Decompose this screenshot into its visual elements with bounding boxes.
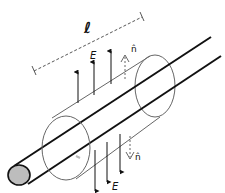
rod-end-face: [8, 165, 30, 185]
dimension-tick-right: [140, 12, 144, 21]
cylinder-bottom-edge: [76, 117, 160, 179]
normal-label-bottom: n̂: [135, 152, 141, 162]
charged-rod: [8, 37, 221, 185]
field-label-bottom: E: [112, 181, 119, 192]
rod-bottom-edge: [28, 56, 221, 184]
length-dimension: ℓ: [32, 12, 144, 75]
upward-field-arrows: E: [78, 50, 111, 103]
field-label-top: E: [90, 50, 97, 61]
normal-vector-top: n̂: [121, 44, 137, 79]
rod-top-edge: [14, 37, 211, 166]
interior-shading-mark: [76, 156, 80, 158]
gauss-law-diagram: ℓ E n̂ E n̂: [0, 0, 225, 193]
downward-field-arrows: E: [95, 134, 120, 192]
length-label: ℓ: [83, 19, 91, 37]
normal-label-top: n̂: [131, 44, 137, 54]
